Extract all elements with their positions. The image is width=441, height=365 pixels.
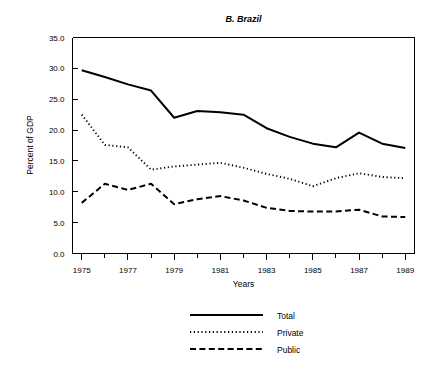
y-tick-label: 35.0 — [49, 34, 65, 43]
plot-frame — [73, 38, 415, 254]
x-tick-label: 1987 — [350, 266, 368, 275]
x-axis-ticks — [82, 254, 406, 260]
x-tick-label: 1979 — [165, 266, 183, 275]
y-axis-ticks — [73, 38, 78, 254]
series-line-public — [82, 184, 406, 217]
y-tick-label: 10.0 — [49, 188, 65, 197]
x-tick-label: 1977 — [119, 266, 137, 275]
chart-figure: B. Brazil 0.05.010.015.020.025.030.035.0… — [0, 0, 441, 365]
x-axis-title: Years — [233, 279, 254, 289]
x-tick-label: 1975 — [73, 266, 91, 275]
y-tick-label: 0.0 — [53, 250, 65, 259]
y-tick-label: 5.0 — [53, 219, 65, 228]
series-line-total — [82, 70, 406, 148]
legend-label-private: Private — [277, 328, 304, 338]
x-tick-label: 1985 — [304, 266, 322, 275]
chart-legend: TotalPrivatePublic — [190, 311, 304, 355]
x-tick-label: 1989 — [396, 266, 414, 275]
y-tick-label: 25.0 — [49, 95, 65, 104]
chart-title: B. Brazil — [225, 14, 262, 24]
x-tick-label: 1981 — [211, 266, 229, 275]
y-tick-label: 15.0 — [49, 157, 65, 166]
y-axis-title: Percent of GDP — [25, 115, 35, 175]
y-axis-tick-labels: 0.05.010.015.020.025.030.035.0 — [49, 34, 65, 259]
legend-label-public: Public — [277, 345, 301, 355]
series-line-private — [82, 115, 406, 187]
legend-label-total: Total — [277, 311, 295, 321]
x-axis-tick-labels: 19751977197919811983198519871989 — [73, 266, 415, 275]
data-series-group — [82, 70, 406, 217]
line-chart: B. Brazil 0.05.010.015.020.025.030.035.0… — [0, 0, 441, 365]
y-tick-label: 20.0 — [49, 126, 65, 135]
x-tick-label: 1983 — [258, 266, 276, 275]
y-tick-label: 30.0 — [49, 64, 65, 73]
